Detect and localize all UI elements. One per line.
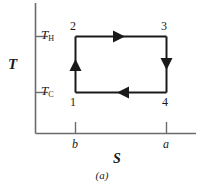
y-tick-label-th: TH xyxy=(41,28,54,41)
arrow-up-icon xyxy=(70,59,82,71)
y-axis-label: T xyxy=(8,57,17,72)
state-label-1: 1 xyxy=(70,96,76,108)
x-axis-label: S xyxy=(113,152,121,166)
arrow-down-icon xyxy=(161,58,173,70)
state-label-2: 2 xyxy=(70,20,76,32)
x-tick-label-b: b xyxy=(72,138,78,150)
ts-diagram-canvas xyxy=(0,0,204,193)
arrow-left-icon xyxy=(117,87,129,99)
y-tick-label-tc-sub: C xyxy=(48,90,53,99)
y-tick-label-th-sub: H xyxy=(48,34,54,43)
ts-diagram-figure: T S TH TC b a 1 2 3 4 (a) xyxy=(0,0,204,193)
x-tick-label-a: a xyxy=(163,138,169,150)
arrow-right-icon xyxy=(113,31,125,43)
state-label-3: 3 xyxy=(161,20,167,32)
state-label-4: 4 xyxy=(162,96,168,108)
y-tick-label-tc: TC xyxy=(41,84,54,97)
figure-caption: (a) xyxy=(88,170,116,181)
